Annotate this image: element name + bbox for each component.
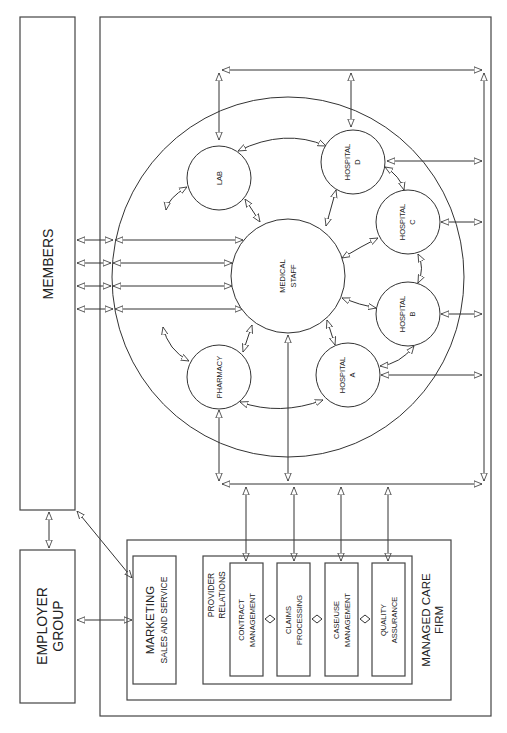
members-label: MEMBERS <box>40 229 56 300</box>
svg-text:MANAGEMENT: MANAGEMENT <box>343 593 352 647</box>
members-box: MEMBERS <box>20 17 75 510</box>
dept-contract-management: CONTRACT MANAGEMENT <box>230 563 263 676</box>
node-hospital-a: HOSPITAL A <box>316 343 380 407</box>
svg-text:ASSURANCE: ASSURANCE <box>390 597 399 644</box>
provider-label-line2: RELATIONS <box>217 571 227 619</box>
dept-quality-assurance: QUALITY ASSURANCE <box>372 563 405 676</box>
svg-text:MANAGEMENT: MANAGEMENT <box>248 593 257 647</box>
employer-label-line1: EMPLOYER <box>34 587 50 665</box>
provider-label-line1: PROVIDER <box>206 573 216 617</box>
members-marketing-arrow <box>77 511 132 578</box>
svg-text:HOSPITAL: HOSPITAL <box>398 296 407 333</box>
svg-text:CASE/USE: CASE/USE <box>332 601 341 639</box>
svg-text:QUALITY: QUALITY <box>379 604 388 636</box>
svg-text:B: B <box>408 311 417 316</box>
dept-diamond-connectors <box>265 615 370 623</box>
svg-text:LAB: LAB <box>215 171 224 185</box>
svg-text:CONTRACT: CONTRACT <box>237 599 246 641</box>
managed-care-diagram: MEMBERS EMPLOYER GROUP <box>0 0 507 733</box>
members-medical-staff-arrows <box>77 240 243 309</box>
svg-text:PROCESSING: PROCESSING <box>295 595 304 645</box>
employer-group-box: EMPLOYER GROUP <box>20 550 75 703</box>
dept-case-use-management: CASE/USE MANAGEMENT <box>325 563 358 676</box>
svg-text:CLAIMS: CLAIMS <box>284 606 293 634</box>
node-hospital-b: HOSPITAL B <box>376 282 440 346</box>
managed-care-label-line2: FIRM <box>433 606 445 634</box>
node-hospital-d: HOSPITAL D <box>321 130 385 194</box>
svg-text:PHARMACY: PHARMACY <box>215 356 224 399</box>
marketing-box: MARKETING SALES AND SERVICE <box>133 556 176 684</box>
svg-text:HOSPITAL: HOSPITAL <box>398 204 407 241</box>
dept-claims-processing: CLAIMS PROCESSING <box>277 563 310 676</box>
node-pharmacy: PHARMACY <box>187 345 251 409</box>
node-lab: LAB <box>187 146 251 210</box>
marketing-label: MARKETING <box>144 586 156 654</box>
svg-text:C: C <box>408 219 417 225</box>
svg-text:D: D <box>353 159 362 165</box>
managed-care-label-line1: MANAGED CARE <box>420 573 432 667</box>
node-hospital-c: HOSPITAL C <box>376 190 440 254</box>
svg-text:MEDICAL: MEDICAL <box>278 259 287 292</box>
svg-text:STAFF: STAFF <box>289 264 298 288</box>
employer-label-line2: GROUP <box>50 600 66 651</box>
svg-text:HOSPITAL: HOSPITAL <box>343 144 352 181</box>
svg-text:HOSPITAL: HOSPITAL <box>338 357 347 394</box>
svg-text:A: A <box>348 372 357 377</box>
sales-service-label: SALES AND SERVICE <box>159 576 169 663</box>
node-medical-staff: MEDICAL STAFF <box>231 219 345 333</box>
